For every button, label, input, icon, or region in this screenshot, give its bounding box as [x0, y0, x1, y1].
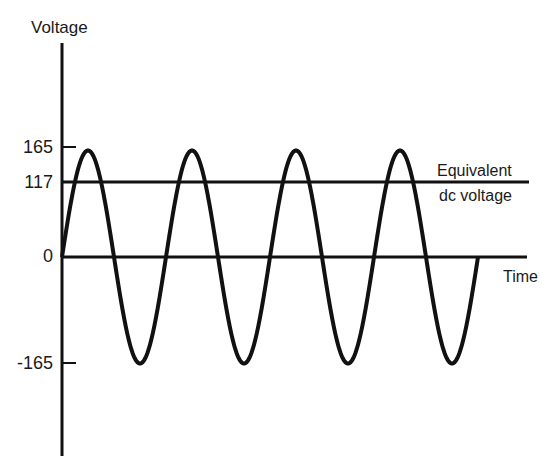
- x-axis-label: Time: [503, 268, 538, 285]
- ac-vs-dc-voltage-diagram: Voltage 165 117 0 -165 Equivalent dc vol…: [0, 0, 554, 473]
- equivalent-dc-label-line1: Equivalent: [437, 162, 512, 179]
- tick-label-minus-165: -165: [17, 353, 53, 373]
- tick-label-117: 117: [24, 172, 53, 192]
- y-axis-label: Voltage: [31, 18, 88, 37]
- tick-label-0: 0: [43, 246, 53, 266]
- equivalent-dc-label-line2: dc voltage: [439, 187, 512, 204]
- tick-label-165: 165: [23, 137, 53, 157]
